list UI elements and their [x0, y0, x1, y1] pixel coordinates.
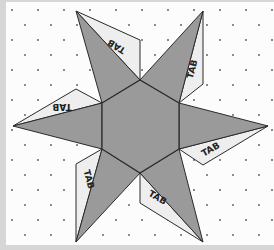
grid-dot	[206, 84, 208, 86]
grid-dot	[76, 24, 78, 26]
grid-dot	[89, 69, 91, 71]
grid-dot	[258, 174, 260, 176]
grid-dot	[11, 189, 13, 191]
grid-dot	[89, 9, 91, 11]
grid-dot	[115, 219, 117, 221]
grid-dot	[219, 99, 221, 101]
grid-dot	[76, 54, 78, 56]
grid-dot	[154, 24, 156, 26]
grid-dot	[232, 234, 234, 236]
grid-dot	[232, 54, 234, 56]
grid-dot	[219, 219, 221, 221]
grid-dot	[219, 69, 221, 71]
grid-dot	[271, 189, 273, 191]
grid-dot	[258, 234, 260, 236]
star-net-diagram: TABTABTABTABTABTAB	[0, 0, 274, 250]
grid-dot	[154, 234, 156, 236]
grid-dot	[245, 39, 247, 41]
tab-label: TAB	[52, 102, 71, 112]
grid-dot	[11, 219, 13, 221]
grid-dot	[206, 234, 208, 236]
grid-dot	[232, 174, 234, 176]
grid-dot	[193, 99, 195, 101]
grid-dot	[50, 144, 52, 146]
grid-dot	[206, 54, 208, 56]
grid-dot	[128, 204, 130, 206]
grid-dot	[76, 144, 78, 146]
grid-dot	[258, 84, 260, 86]
grid-dot	[37, 189, 39, 191]
grid-dot	[180, 234, 182, 236]
grid-dot	[24, 54, 26, 56]
grid-dot	[24, 174, 26, 176]
grid-dot	[141, 39, 143, 41]
grid-dot	[193, 9, 195, 11]
grid-dot	[24, 234, 26, 236]
grid-dot	[245, 189, 247, 191]
grid-dot	[63, 9, 65, 11]
grid-dot	[50, 84, 52, 86]
grid-dot	[128, 24, 130, 26]
grid-dot	[232, 24, 234, 26]
grid-dot	[63, 189, 65, 191]
grid-dot	[63, 159, 65, 161]
grid-dot	[271, 159, 273, 161]
grid-dot	[102, 234, 104, 236]
grid-dot	[11, 99, 13, 101]
grid-dot	[141, 69, 143, 71]
grid-dot	[219, 189, 221, 191]
grid-dot	[271, 69, 273, 71]
grid-dot	[245, 159, 247, 161]
grid-dot	[167, 9, 169, 11]
grid-dot	[271, 9, 273, 11]
grid-dot	[219, 9, 221, 11]
grid-dot	[271, 99, 273, 101]
grid-dot	[245, 99, 247, 101]
grid-dot	[193, 189, 195, 191]
grid-dot	[154, 54, 156, 56]
grid-dot	[232, 84, 234, 86]
grid-dot	[271, 219, 273, 221]
grid-dot	[37, 39, 39, 41]
grid-dot	[232, 114, 234, 116]
grid-dot	[128, 234, 130, 236]
grid-dot	[37, 159, 39, 161]
grid-dot	[63, 69, 65, 71]
grid-dot	[115, 9, 117, 11]
grid-dot	[63, 39, 65, 41]
grid-dot	[63, 219, 65, 221]
grid-dot	[258, 114, 260, 116]
grid-dot	[11, 129, 13, 131]
grid-dot	[37, 99, 39, 101]
grid-dot	[50, 204, 52, 206]
grid-dot	[271, 39, 273, 41]
grid-dot	[232, 204, 234, 206]
grid-dot	[50, 24, 52, 26]
grid-dot	[24, 24, 26, 26]
grid-dot	[206, 204, 208, 206]
grid-dot	[24, 144, 26, 146]
grid-dot	[245, 9, 247, 11]
grid-dot	[141, 9, 143, 11]
grid-dot	[24, 114, 26, 116]
grid-dot	[11, 39, 13, 41]
grid-dot	[50, 234, 52, 236]
grid-dot	[245, 219, 247, 221]
grid-dot	[206, 174, 208, 176]
grid-dot	[271, 129, 273, 131]
grid-dot	[11, 159, 13, 161]
grid-dot	[258, 144, 260, 146]
grid-dot	[219, 39, 221, 41]
grid-dot	[11, 9, 13, 11]
grid-dot	[50, 54, 52, 56]
grid-dot	[258, 24, 260, 26]
grid-dot	[141, 219, 143, 221]
grid-dot	[219, 159, 221, 161]
grid-dot	[24, 84, 26, 86]
grid-dot	[11, 69, 13, 71]
grid-dot	[24, 204, 26, 206]
diagram-frame: TABTABTABTABTABTAB	[0, 0, 274, 250]
grid-dot	[258, 204, 260, 206]
grid-dot	[37, 69, 39, 71]
grid-dot	[37, 219, 39, 221]
